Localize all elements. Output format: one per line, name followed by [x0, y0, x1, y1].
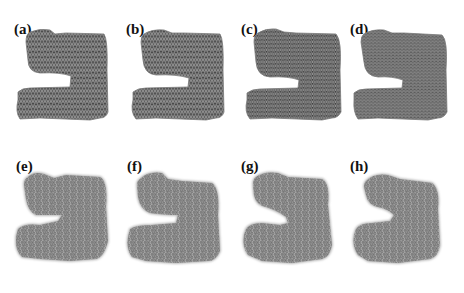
point-cloud-shape [348, 145, 464, 293]
mesh-shape [0, 0, 116, 145]
mesh-shape [116, 0, 232, 145]
panel-g: (g) [232, 145, 348, 293]
panel-f: (f) [116, 145, 232, 293]
panel-d: (d) [348, 0, 464, 145]
point-cloud-shape [0, 145, 116, 293]
panel-c: (c) [232, 0, 348, 145]
mesh-shape [348, 0, 464, 145]
mesh-shape [232, 0, 348, 145]
point-cloud-shape [116, 145, 232, 293]
panel-e: (e) [0, 145, 116, 293]
panel-h: (h) [348, 145, 464, 293]
panel-a: (a) [0, 0, 116, 145]
point-cloud-shape [232, 145, 348, 293]
panel-b: (b) [116, 0, 232, 145]
figure: (a) (b) (c) (d) (e) (f) [0, 0, 464, 293]
